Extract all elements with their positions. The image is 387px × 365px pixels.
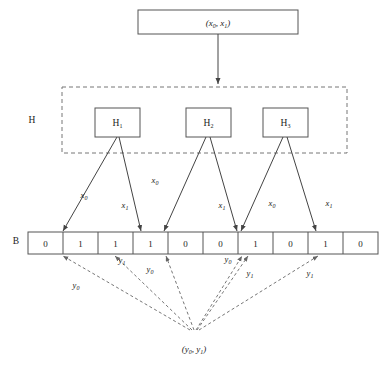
bit-cell: 1	[78, 239, 83, 249]
edge-label-y0-2: y0	[146, 264, 154, 275]
bit-array: 0 1 1 1 0 0 1 0 1 0	[28, 232, 378, 254]
edge-label-y1-3: y1	[306, 268, 314, 279]
edge-label-y1-2: y1	[246, 268, 254, 279]
bit-cell: 0	[183, 239, 188, 249]
edge-h3-x1	[287, 137, 316, 231]
edge-label-y0-1: y0	[72, 280, 80, 291]
input-node: (x0, x1)	[138, 10, 298, 34]
bit-cell: 0	[358, 239, 363, 249]
bit-cell: 0	[288, 239, 293, 249]
edge-label-x0-3: x0	[268, 198, 276, 209]
bit-cell: 1	[323, 239, 328, 249]
input-label: (x0, x1)	[206, 18, 231, 29]
edge-h2-x1	[210, 137, 237, 231]
edge-label-x0-1: x0	[80, 190, 88, 201]
bit-cell: 1	[253, 239, 258, 249]
edge-label-x1-2: x1	[218, 200, 226, 211]
hash-box-h2: H2	[186, 108, 231, 137]
edge-h1-x0	[63, 137, 117, 231]
bit-cell: 1	[148, 239, 153, 249]
hash-box-h3: H3	[263, 108, 308, 137]
hash-group-label: H	[29, 115, 36, 125]
bit-cell: 0	[43, 239, 48, 249]
edge-h3-x0	[241, 137, 283, 231]
edge-out-y0-3	[196, 256, 242, 330]
edge-label-x1-3: x1	[325, 198, 333, 209]
edge-h2-x0	[164, 137, 206, 231]
edge-label-x0-2: x0	[151, 175, 159, 186]
edge-label-x1-1: x1	[121, 200, 129, 211]
bit-array-label: B	[13, 236, 19, 246]
edge-h1-x1	[119, 137, 141, 231]
edge-label-y0-3: y0	[224, 254, 232, 265]
diagram-canvas: (x0, x1) H H1 H2 H3 x0 x1	[0, 0, 387, 365]
bit-cell: 1	[113, 239, 118, 249]
bit-cell: 0	[218, 239, 223, 249]
edge-out-y1-2	[197, 256, 248, 330]
hash-box-h1: H1	[95, 108, 140, 137]
edge-label-y1-1: y1	[118, 255, 126, 266]
output-label: (y0, y1)	[182, 344, 207, 355]
edge-out-y1-3	[199, 256, 318, 330]
